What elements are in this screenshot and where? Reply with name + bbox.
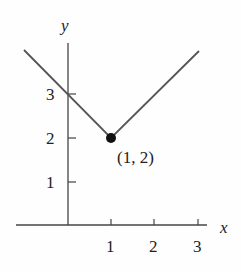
x-tick-label-1: 1 (106, 237, 115, 256)
point-label: (1, 2) (117, 148, 154, 167)
y-tick-label-3: 3 (46, 85, 55, 104)
chart-svg: y x 1 2 3 1 2 3 (1, 2) (0, 0, 241, 272)
x-tick-label-2: 2 (149, 237, 158, 256)
x-axis-label: x (219, 218, 228, 237)
chart-figure: y x 1 2 3 1 2 3 (1, 2) (0, 0, 241, 272)
vertex-point (106, 133, 116, 143)
y-axis-label: y (59, 16, 69, 35)
y-tick-label-1: 1 (46, 173, 55, 192)
x-tick-label-3: 3 (193, 237, 202, 256)
y-tick-label-2: 2 (46, 129, 55, 148)
